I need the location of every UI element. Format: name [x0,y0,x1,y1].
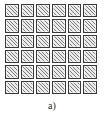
hatched-tile [36,50,50,63]
figure-panel-a: a) [0,0,104,119]
grid-cell [20,3,36,18]
grid-cell [4,34,20,49]
hatch-pattern [37,66,49,77]
grid-cell [20,18,36,33]
hatch-pattern [69,82,81,93]
grid-cell [20,34,36,49]
hatched-tile [52,65,66,78]
grid-cell [67,49,83,64]
grid-cell [67,64,83,79]
hatch-pattern [69,20,81,31]
hatch-pattern [37,82,49,93]
hatch-pattern [22,5,34,16]
hatch-pattern [84,5,96,16]
hatched-tile [83,81,97,94]
grid-cell [20,49,36,64]
hatch-pattern [37,20,49,31]
hatch-pattern [84,82,96,93]
hatch-pattern [6,36,18,47]
hatched-tile [21,81,35,94]
hatched-tile [83,65,97,78]
hatched-tile [68,35,82,48]
hatch-pattern [37,51,49,62]
grid-cell [82,3,98,18]
grid-cell [51,49,67,64]
hatched-tile [5,4,19,17]
hatch-pattern [69,51,81,62]
hatched-tile [83,4,97,17]
grid-cell [4,18,20,33]
grid-cell [82,34,98,49]
hatch-pattern [53,82,65,93]
hatched-tile [83,19,97,32]
hatched-tile [21,19,35,32]
hatch-pattern [53,51,65,62]
hatched-tile [68,4,82,17]
hatched-tile [52,50,66,63]
hatched-tile [68,65,82,78]
subfigure-caption: a) [0,100,104,112]
hatched-tile [5,35,19,48]
hatch-pattern [53,5,65,16]
hatch-pattern [69,36,81,47]
hatch-pattern [6,20,18,31]
grid-cell [51,18,67,33]
hatched-tile [5,65,19,78]
grid-cell [51,3,67,18]
hatched-tile [5,19,19,32]
hatched-tile [52,35,66,48]
hatched-tile [36,19,50,32]
hatch-pattern [22,20,34,31]
grid-cell [67,18,83,33]
hatch-pattern [6,51,18,62]
hatch-pattern [6,82,18,93]
hatched-tile [68,50,82,63]
hatch-pattern [84,36,96,47]
hatched-tile [21,35,35,48]
grid-cell [20,64,36,79]
hatched-tile [52,81,66,94]
grid-cell [35,49,51,64]
hatched-tile [52,19,66,32]
hatch-pattern [22,66,34,77]
hatched-tile [68,19,82,32]
hatch-pattern [22,51,34,62]
hatch-pattern [84,51,96,62]
grid-cell [4,64,20,79]
hatch-pattern [37,36,49,47]
hatched-tile [5,81,19,94]
hatch-pattern [84,20,96,31]
grid-cell [82,18,98,33]
hatched-tile [36,4,50,17]
hatched-tile [5,50,19,63]
hatch-pattern [22,36,34,47]
grid-cell [4,80,20,95]
hatched-tile [52,4,66,17]
hatched-tile [21,4,35,17]
hatched-tile [36,65,50,78]
tile-grid [4,3,98,95]
hatch-pattern [69,5,81,16]
grid-cell [35,80,51,95]
hatch-pattern [53,66,65,77]
grid-cell [51,80,67,95]
grid-cell [82,49,98,64]
grid-cell [4,49,20,64]
grid-cell [82,64,98,79]
hatch-pattern [53,20,65,31]
grid-cell [67,3,83,18]
grid-cell [35,64,51,79]
hatched-tile [68,81,82,94]
hatch-pattern [22,82,34,93]
grid-cell [20,80,36,95]
grid-cell [67,80,83,95]
hatch-pattern [69,66,81,77]
grid-cell [35,3,51,18]
grid-cell [51,34,67,49]
hatched-tile [21,50,35,63]
hatched-tile [83,35,97,48]
hatched-tile [36,35,50,48]
grid-cell [67,34,83,49]
hatched-tile [21,65,35,78]
hatch-pattern [84,66,96,77]
